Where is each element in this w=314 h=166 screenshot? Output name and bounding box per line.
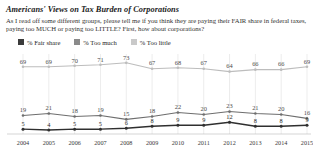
svg-text:2006: 2006: [68, 139, 80, 146]
svg-text:2014: 2014: [275, 139, 287, 146]
svg-text:21: 21: [46, 104, 52, 111]
data-labels: 6969707173676867646666691921181915182220…: [20, 53, 310, 127]
legend-swatch-too-much-icon: [74, 39, 80, 45]
svg-text:15: 15: [123, 110, 129, 117]
legend-item-too-much[interactable]: % Too much: [74, 39, 116, 46]
legend-label-too-much: % Too much: [83, 39, 116, 46]
svg-text:20: 20: [201, 105, 207, 112]
chart-card: Americans' Views on Tax Burden of Corpor…: [0, 0, 314, 166]
svg-text:8: 8: [150, 117, 153, 124]
svg-text:9: 9: [176, 116, 179, 123]
svg-text:12: 12: [226, 113, 232, 120]
svg-text:2010: 2010: [172, 139, 184, 146]
svg-text:69: 69: [46, 57, 52, 64]
svg-text:18: 18: [149, 107, 155, 114]
svg-text:2009: 2009: [146, 139, 158, 146]
svg-text:9: 9: [202, 116, 205, 123]
series-lines: [22, 61, 309, 131]
svg-text:66: 66: [278, 60, 284, 67]
svg-text:2005: 2005: [43, 139, 55, 146]
svg-text:20: 20: [278, 105, 284, 112]
legend-item-too-little[interactable]: % Too little: [131, 39, 171, 46]
svg-text:5: 5: [21, 120, 24, 127]
svg-text:22: 22: [175, 103, 181, 110]
line-chart-plot-area: 6969707173676867646666691921181915182220…: [5, 48, 313, 152]
svg-text:21: 21: [252, 104, 258, 111]
svg-text:5: 5: [73, 120, 76, 127]
legend-label-too-little: % Too little: [140, 39, 171, 46]
svg-text:71: 71: [97, 55, 103, 62]
legend-label-fair-share: % Fair share: [27, 39, 60, 46]
legend-swatch-too-little-icon: [131, 39, 137, 45]
legend-item-fair-share[interactable]: % Fair share: [18, 39, 60, 46]
x-axis-tick-labels: 2004200520062007200820092010201120122013…: [17, 139, 313, 146]
svg-text:5: 5: [99, 120, 102, 127]
svg-text:68: 68: [175, 58, 181, 65]
svg-text:67: 67: [201, 59, 208, 66]
svg-text:23: 23: [226, 102, 232, 109]
svg-text:19: 19: [20, 106, 26, 113]
line-chart-svg: 6969707173676867646666691921181915182220…: [5, 48, 313, 152]
svg-text:2004: 2004: [17, 139, 29, 146]
svg-text:67: 67: [149, 59, 156, 66]
svg-text:8: 8: [280, 117, 283, 124]
survey-question-text: As I read off some different groups, ple…: [6, 17, 310, 34]
svg-text:4: 4: [47, 121, 51, 128]
svg-text:2015: 2015: [301, 139, 313, 146]
svg-text:70: 70: [71, 56, 77, 63]
chart-legend: % Fair share % Too much % Too little: [18, 38, 310, 47]
svg-text:2013: 2013: [249, 139, 261, 146]
page-title: Americans' Views on Tax Burden of Corpor…: [6, 5, 310, 15]
svg-text:2011: 2011: [198, 139, 210, 146]
svg-text:69: 69: [304, 57, 310, 64]
svg-text:64: 64: [226, 62, 233, 69]
svg-text:2008: 2008: [120, 139, 132, 146]
svg-text:6: 6: [125, 119, 128, 126]
svg-text:69: 69: [20, 57, 26, 64]
svg-text:66: 66: [252, 60, 258, 67]
svg-text:2012: 2012: [223, 139, 235, 146]
svg-text:8: 8: [254, 117, 257, 124]
svg-text:19: 19: [97, 106, 103, 113]
svg-text:2007: 2007: [94, 139, 106, 146]
svg-text:18: 18: [71, 107, 77, 114]
svg-text:9: 9: [305, 116, 308, 123]
legend-swatch-fair-share-icon: [18, 39, 24, 45]
svg-text:73: 73: [123, 53, 129, 60]
